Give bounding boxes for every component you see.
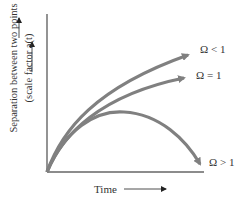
scale-factor-diagram: Separation between two points (scale fac… xyxy=(0,0,248,208)
x-axis-label: Time xyxy=(94,183,117,195)
label-omega-equals-1: Ω = 1 xyxy=(196,69,221,81)
label-omega-greater-than-1: Ω > 1 xyxy=(209,156,234,168)
label-omega-less-than-1: Ω < 1 xyxy=(200,43,225,55)
curve-omega-greater-than-1 xyxy=(47,112,200,172)
y-axis-label-line2: (scale factor a(t) xyxy=(21,0,36,172)
y-axis-label: Separation between two points (scale fac… xyxy=(0,0,44,172)
y-axis-label-line1: Separation between two points xyxy=(6,0,21,172)
